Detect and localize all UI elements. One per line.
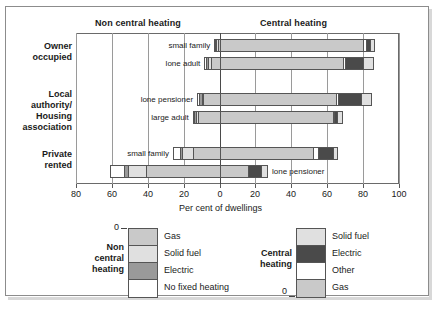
legend-swatch-no-fixed-heating — [129, 280, 157, 297]
bar-row — [173, 147, 338, 160]
legend-swatch-other — [297, 263, 325, 280]
category-axis-labels: OwneroccupiedLocalauthority/Housingassoc… — [4, 33, 72, 184]
category-label-line: Owner — [6, 41, 72, 52]
bar-row — [204, 57, 374, 70]
bar-segment-central-gas — [220, 165, 249, 178]
figure-shadow-right — [429, 9, 432, 300]
legend-entry-no-fixed-heating: No fixed heating — [164, 279, 229, 296]
legend-entry-solid-fuel: Solid fuel — [332, 228, 369, 245]
axis-tick — [291, 184, 292, 188]
bar-segment-central-gas — [220, 39, 364, 52]
bar-label: lone adult — [166, 57, 201, 70]
gridline — [184, 33, 185, 184]
category-label-line: Local — [6, 89, 72, 100]
axis-tick-label: 60 — [99, 189, 125, 199]
gridline — [255, 33, 256, 184]
bar-segment-central-solid-fuel — [333, 147, 338, 160]
bar-segment-central-solid-fuel — [370, 39, 375, 52]
gridline — [76, 33, 77, 184]
bar-row — [214, 39, 375, 52]
legend-zero-tick — [289, 296, 295, 297]
gridline — [399, 33, 400, 184]
axis-tick-label: 100 — [386, 189, 412, 199]
axis-tick — [220, 184, 221, 188]
bar-segment-central-solid-fuel — [337, 111, 342, 124]
axis-tick — [327, 184, 328, 188]
bar-segment-non-central-gas — [203, 93, 219, 106]
axis-tick-label: 20 — [171, 189, 197, 199]
bar-label: small family — [127, 147, 169, 160]
chart-figure: Non central heating Central heating Owne… — [0, 0, 441, 311]
band-title-non-central-heating: Non central heating — [95, 18, 181, 28]
bar-segment-non-central-no-fixed-heating — [173, 147, 180, 160]
legend-entry-electric: Electric — [332, 245, 362, 262]
axis-tick — [148, 184, 149, 188]
legend-title-line: heating — [234, 259, 292, 270]
bar-segment-central-electric — [318, 147, 332, 160]
bar-segment-central-electric — [345, 57, 363, 70]
bar-segment-non-central-no-fixed-heating — [110, 165, 124, 178]
axis-tick — [184, 184, 185, 188]
bar-segment-central-gas — [220, 93, 337, 106]
legend-title: Noncentralheating — [66, 242, 124, 275]
category-label-line: Housing — [6, 111, 72, 122]
category-label-line: authority/ — [6, 100, 72, 111]
legend-swatch-electric — [129, 263, 157, 280]
legend-title-line: central — [66, 253, 124, 264]
axis-tick-label: 80 — [350, 189, 376, 199]
axis-tick-label: 0 — [207, 189, 233, 199]
gridline — [291, 33, 292, 184]
legend-title-line: Central — [234, 248, 292, 259]
bar-segment-central-electric — [338, 93, 361, 106]
bar-segment-central-solid-fuel — [361, 93, 372, 106]
legend-entry-gas: Gas — [332, 279, 349, 296]
axis-tick — [363, 184, 364, 188]
gridline — [112, 33, 113, 184]
category-label-line: Private — [6, 149, 72, 160]
axis-tick-label: 80 — [63, 189, 89, 199]
bar-segment-non-central-gas — [193, 147, 220, 160]
legend-zero-label: 0 — [114, 222, 119, 232]
axis-tick-label: 20 — [242, 189, 268, 199]
bar-row — [110, 165, 268, 178]
bar-segment-non-central-solid-fuel — [128, 165, 146, 178]
figure-shadow-bottom — [8, 297, 432, 300]
gridline — [327, 33, 328, 184]
category-label-line: rented — [6, 160, 72, 171]
category-label: Owneroccupied — [6, 41, 72, 63]
gridline — [363, 33, 364, 184]
bar-segment-central-gas — [220, 57, 344, 70]
bar-segment-non-central-gas — [198, 111, 220, 124]
legend-swatch-column — [296, 228, 326, 298]
legend-swatch-column — [128, 228, 158, 298]
bar-label: small family — [168, 39, 210, 52]
bar-segment-central-electric — [248, 165, 261, 178]
axis-tick — [112, 184, 113, 188]
legend-swatch-gas — [129, 229, 157, 246]
x-axis-title: Per cent of dwellings — [0, 203, 441, 213]
legend-swatch-electric — [297, 246, 325, 263]
legend-swatch-solid-fuel — [297, 229, 325, 246]
bar-segment-central-solid-fuel — [261, 165, 268, 178]
legend-title: Centralheating — [234, 248, 292, 270]
legend-zero-label: 0 — [282, 286, 287, 296]
axis-tick — [255, 184, 256, 188]
axis-tick — [399, 184, 400, 188]
category-label-line: occupied — [6, 52, 72, 63]
category-label: Localauthority/Housingassociation — [6, 89, 72, 133]
bar-segment-non-central-gas — [211, 57, 220, 70]
bar-segment-non-central-gas — [146, 165, 220, 178]
bar-segment-central-gas — [220, 111, 333, 124]
legend-entry-electric: Electric — [164, 262, 194, 279]
plot-area: small familylone adultlone pensionerlarg… — [76, 33, 399, 184]
bar-label: lone pensioner — [272, 165, 324, 178]
bar-segment-central-solid-fuel — [363, 57, 374, 70]
bar-segment-non-central-solid-fuel — [182, 147, 193, 160]
axis-tick — [76, 184, 77, 188]
bar-row — [193, 111, 343, 124]
bar-segment-central-gas — [220, 147, 313, 160]
band-title-central-heating: Central heating — [260, 18, 327, 28]
legend-title-line: Non — [66, 242, 124, 253]
legend-entry-gas: Gas — [164, 228, 181, 245]
category-label-line: association — [6, 122, 72, 133]
